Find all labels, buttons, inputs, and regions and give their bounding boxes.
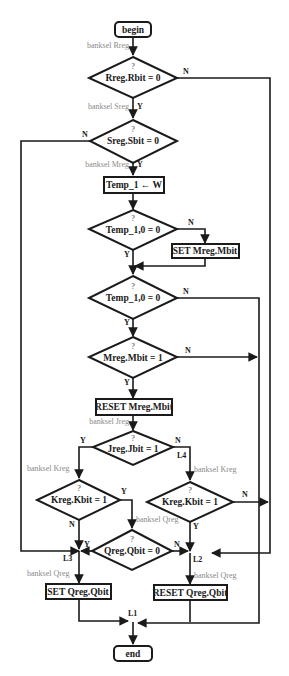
svg-text:?: ? (77, 484, 81, 493)
d3-yes-label: Y (124, 250, 130, 259)
process-temp-assign: Temp_1 ← W (104, 177, 164, 193)
d2-no-label: N (82, 130, 88, 139)
decision-jreg-jbit: ? Jreg.Jbit = 1 (93, 431, 173, 465)
svg-text:?: ? (188, 486, 192, 495)
d1-yes-label: Y (137, 102, 143, 111)
banksel-kreg-right-note: banksel Kreg (194, 465, 236, 474)
d5-no-label: N (185, 346, 191, 355)
decision-temp1-bit0-first: ? Temp_1,0 = 0 (89, 210, 177, 250)
svg-text:SET Qreg.Qbit: SET Qreg.Qbit (47, 587, 109, 597)
d6-no-label: N (175, 436, 181, 445)
svg-text:?: ? (130, 535, 134, 544)
svg-text:?: ? (131, 62, 135, 71)
svg-text:Kreg.Kbit = 1: Kreg.Kbit = 1 (51, 495, 107, 505)
d7-no-label: N (69, 520, 75, 529)
d5-yes-label: Y (124, 378, 130, 387)
d3-no-label: N (188, 218, 194, 227)
decision-sreg-sbit: ? Sreg.Sbit = 0 (90, 120, 177, 163)
decision-kreg-kbit-left: ? Kreg.Kbit = 1 (37, 480, 120, 520)
d4-no-label: N (183, 287, 189, 296)
svg-text:?: ? (131, 282, 135, 291)
svg-text:?: ? (131, 214, 135, 223)
end-terminal: end (114, 646, 152, 661)
svg-text:Temp_1,0 = 0: Temp_1,0 = 0 (106, 225, 161, 235)
process-reset-mreg: RESET Mreg.Mbit (95, 399, 174, 415)
svg-text:Sreg.Sbit = 0: Sreg.Sbit = 0 (107, 136, 159, 146)
banksel-qreg-right-note: banksel Qreg (194, 571, 236, 580)
svg-text:?: ? (131, 125, 135, 134)
d8-no-label: N (242, 490, 248, 499)
flowchart: begin end ? Rreg.Rbit = 0 ? Sreg.Sbit = … (0, 0, 289, 676)
d2-yes-label: Y (137, 160, 143, 169)
d8-yes-label: Y (193, 522, 199, 531)
d6-yes-label: Y (80, 436, 86, 445)
banksel-mreg-note: banksel Mreg (85, 160, 129, 169)
process-reset-qreg: RESET Qreg.Qbit (153, 585, 228, 600)
d4-yes-label: Y (124, 318, 130, 327)
svg-text:RESET Mreg.Mbit: RESET Mreg.Mbit (95, 402, 174, 412)
svg-text:RESET Qreg.Qbit: RESET Qreg.Qbit (153, 588, 228, 598)
banksel-jreg-note: banksel Jreg (89, 417, 129, 426)
d7-yes-label: Y (121, 487, 127, 496)
svg-text:Mreg.Mbit = 1: Mreg.Mbit = 1 (103, 353, 163, 363)
label-l2: L2 (193, 555, 202, 564)
process-set-qreg: SET Qreg.Qbit (46, 584, 111, 599)
svg-text:begin: begin (122, 25, 145, 35)
decision-qreg-qbit: ? Qreg.Qbit = 0 (92, 530, 172, 570)
banksel-qreg-mid-note: banksel Qreg (136, 515, 178, 524)
svg-text:?: ? (131, 434, 135, 443)
banksel-qreg-left-note: banksel Qreg (27, 569, 69, 578)
label-l1: L1 (128, 609, 137, 618)
banksel-sreg-note: banksel Sreg (88, 102, 129, 111)
decision-temp1-bit0-second: ? Temp_1,0 = 0 (89, 276, 177, 319)
label-l4: L4 (177, 451, 186, 460)
svg-text:Qreg.Qbit = 0: Qreg.Qbit = 0 (104, 546, 160, 556)
svg-text:Rreg.Rbit = 0: Rreg.Rbit = 0 (105, 73, 160, 83)
decision-mreg-mbit: ? Mreg.Mbit = 1 (89, 337, 177, 378)
d9-no-label: N (174, 540, 180, 549)
svg-text:Temp_1 ← W: Temp_1 ← W (106, 180, 162, 190)
banksel-kreg-left-note: banksel Kreg (27, 464, 69, 473)
d1-no-label: N (183, 67, 189, 76)
banksel-rreg-note: banksel Rreg (87, 41, 129, 50)
svg-text:?: ? (131, 342, 135, 351)
process-set-mreg: SET Mreg.Mbit (172, 244, 239, 258)
begin-terminal: begin (115, 22, 151, 37)
svg-text:Temp_1,0 = 0: Temp_1,0 = 0 (106, 293, 161, 303)
svg-text:end: end (126, 649, 142, 659)
label-l3: L3 (63, 554, 72, 563)
decision-rreg-rbit: ? Rreg.Rbit = 0 (89, 57, 177, 98)
d9-yes-label: Y (84, 540, 90, 549)
svg-text:Jreg.Jbit = 1: Jreg.Jbit = 1 (108, 444, 159, 454)
svg-text:SET Mreg.Mbit: SET Mreg.Mbit (173, 246, 238, 256)
svg-text:Kreg.Kbit = 1: Kreg.Kbit = 1 (162, 497, 218, 507)
